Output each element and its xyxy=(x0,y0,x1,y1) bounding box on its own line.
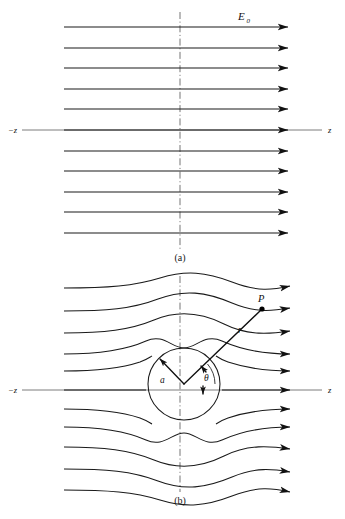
field-line-seg-left xyxy=(64,339,184,354)
field-line-seg-right xyxy=(184,427,290,442)
field-line xyxy=(64,469,290,487)
point-p-label: P xyxy=(257,293,265,304)
field-line xyxy=(64,273,290,289)
field-line-seg-left xyxy=(64,356,152,371)
field-line xyxy=(64,447,290,467)
panel-a: E 0 −z z (a) xyxy=(8,10,332,264)
panel-a-field-lines xyxy=(64,27,288,233)
panel-a-caption: (a) xyxy=(174,252,185,264)
panel-b-field-lines-lower xyxy=(64,409,290,505)
field-line xyxy=(64,314,290,334)
panel-b-axis-label-right: z xyxy=(327,385,332,395)
panel-b: a r θ P −z z (b) xyxy=(8,273,332,507)
theta-arc-arrow xyxy=(201,366,206,372)
field-line-seg-left xyxy=(64,409,152,424)
figure-canvas: E 0 −z z (a) xyxy=(0,0,345,519)
panel-b-caption: (b) xyxy=(174,495,186,507)
radial-label-r: r xyxy=(238,325,242,335)
field-line-seg-right xyxy=(216,356,290,371)
field-line xyxy=(64,293,290,311)
panel-b-field-lines-upper xyxy=(64,273,290,371)
radial-vector-r xyxy=(184,310,261,384)
panel-a-axis-label-right: z xyxy=(327,125,332,135)
theta-label: θ xyxy=(204,373,209,383)
physics-figure: E 0 −z z (a) xyxy=(0,0,345,519)
panel-b-axis-label-left: −z xyxy=(8,385,18,395)
panel-a-axis-label-left: −z xyxy=(8,125,18,135)
field-label-e0: E xyxy=(237,10,245,22)
field-label-e0-subscript: 0 xyxy=(247,17,251,25)
field-line-seg-right xyxy=(216,409,290,424)
field-line-seg-left xyxy=(64,427,184,442)
point-p-marker xyxy=(259,306,264,311)
radius-label-a: a xyxy=(160,375,165,385)
